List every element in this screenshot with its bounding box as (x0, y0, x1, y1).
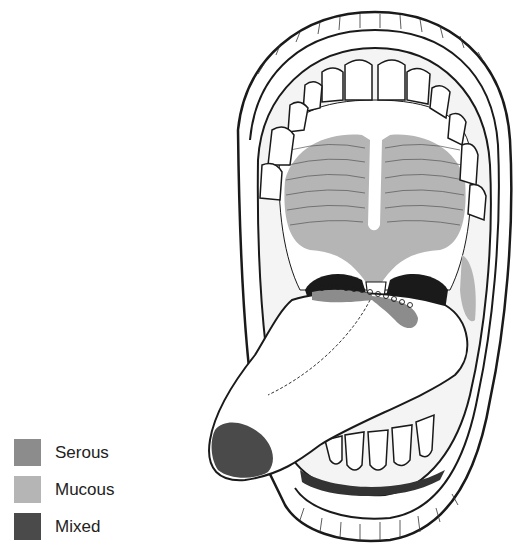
legend-label: Serous (55, 443, 109, 463)
mucous-swatch (14, 476, 41, 503)
legend: Serous Mucous Mixed (14, 434, 115, 545)
legend-label: Mixed (55, 517, 100, 537)
mixed-swatch (14, 513, 41, 540)
legend-item-mucous: Mucous (14, 471, 115, 508)
legend-item-mixed: Mixed (14, 508, 115, 545)
legend-item-serous: Serous (14, 434, 115, 471)
serous-swatch (14, 439, 41, 466)
legend-label: Mucous (55, 480, 115, 500)
